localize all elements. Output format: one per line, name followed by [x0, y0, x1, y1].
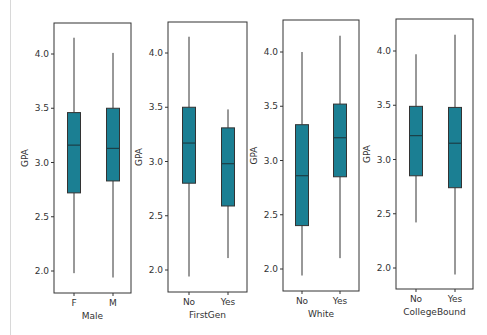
y-tick-label: 4.0	[35, 49, 50, 59]
box-yes	[449, 35, 462, 275]
iqr-box	[183, 107, 196, 183]
y-axis-label: GPA	[134, 147, 144, 166]
x-tick-label: F	[71, 298, 76, 308]
x-tick-label: No	[410, 294, 423, 304]
y-axis-label: GPA	[20, 148, 30, 167]
iqr-box	[68, 113, 81, 193]
box-no	[296, 52, 309, 276]
iqr-box	[410, 106, 423, 175]
y-tick-label: 2.5	[377, 209, 391, 219]
x-tick-label: No	[183, 297, 196, 307]
y-axis-label: GPA	[249, 146, 259, 165]
x-axis-label: CollegeBound	[403, 307, 465, 317]
y-tick-label: 2.5	[149, 211, 163, 221]
x-axis-label: White	[308, 309, 335, 319]
x-tick-label: No	[296, 296, 309, 306]
iqr-box	[449, 107, 462, 187]
panel-male: 2.02.53.03.54.0GPAFMMale	[20, 23, 131, 321]
y-tick-label: 2.0	[264, 264, 279, 274]
panel-collegebound: 2.02.53.03.54.0GPANoYesCollegeBound	[362, 19, 473, 317]
iqr-box	[107, 108, 120, 181]
y-tick-label: 3.5	[377, 100, 391, 110]
box-yes	[334, 36, 347, 258]
panel-frame	[283, 20, 359, 291]
x-tick-label: Yes	[447, 294, 463, 304]
y-tick-label: 2.0	[35, 266, 50, 276]
y-tick-label: 3.5	[149, 102, 163, 112]
y-axis-label: GPA	[362, 144, 372, 163]
box-f	[68, 38, 81, 273]
x-tick-label: Yes	[332, 296, 348, 306]
iqr-box	[334, 104, 347, 177]
x-axis-label: FirstGen	[189, 310, 226, 320]
y-tick-label: 3.0	[35, 158, 50, 168]
y-tick-label: 3.0	[264, 156, 279, 166]
panel-white: 2.02.53.03.54.0GPANoYesWhite	[249, 20, 359, 319]
panel-frame	[168, 22, 247, 292]
y-tick-label: 4.0	[264, 47, 279, 57]
y-tick-label: 3.0	[149, 157, 164, 167]
y-tick-label: 3.5	[35, 103, 49, 113]
y-tick-label: 4.0	[149, 48, 164, 58]
y-tick-label: 3.5	[264, 101, 278, 111]
x-tick-label: M	[109, 298, 117, 308]
x-tick-label: Yes	[220, 297, 236, 307]
panel-firstgen: 2.02.53.03.54.0GPANoYesFirstGen	[134, 22, 247, 320]
y-tick-label: 2.0	[377, 263, 392, 273]
y-tick-label: 2.5	[35, 212, 49, 222]
box-m	[107, 53, 120, 278]
box-no	[183, 37, 196, 277]
box-no	[410, 54, 423, 222]
iqr-box	[222, 128, 235, 206]
boxplot-figure: 2.02.53.03.54.0GPAFMMale2.02.53.03.54.0G…	[0, 0, 487, 335]
y-tick-label: 3.0	[377, 155, 392, 165]
box-yes	[222, 109, 235, 258]
y-tick-label: 2.0	[149, 265, 164, 275]
x-axis-label: Male	[82, 311, 104, 321]
y-tick-label: 4.0	[377, 46, 392, 56]
y-tick-label: 2.5	[264, 210, 278, 220]
